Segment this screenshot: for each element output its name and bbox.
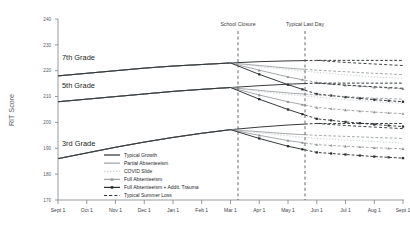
y-tick-label: 170	[43, 198, 51, 203]
data-point-marker	[402, 157, 404, 159]
grade-label-5th: 5th Grade	[62, 81, 95, 90]
x-tick-label: Sept 1	[396, 207, 410, 213]
data-point-marker	[373, 99, 375, 101]
typical-last-day-label: Typical Last Day	[286, 21, 324, 27]
x-tick-label: Jan 1	[167, 207, 179, 213]
y-tick-label: 230	[43, 43, 51, 48]
data-point-marker	[344, 153, 346, 155]
data-point-marker	[287, 145, 289, 147]
x-tick-label: Oct 1	[81, 207, 93, 213]
x-tick-label: May 1	[281, 207, 295, 213]
legend-label: Typical Summer Loss	[124, 192, 172, 198]
data-point-marker	[316, 151, 318, 153]
y-tick-label: 200	[43, 120, 51, 125]
y-tick-label: 190	[43, 146, 51, 151]
data-point-marker	[258, 98, 260, 100]
legend-label: COVID Slide	[124, 168, 153, 174]
chart-container: 170180190200210220230240 RIT Score Sept …	[0, 0, 410, 232]
data-point-marker	[344, 121, 346, 123]
x-tick-label: Jul 1	[340, 207, 351, 213]
data-point-marker	[402, 125, 404, 127]
legend-square-marker	[111, 186, 114, 189]
data-point-marker	[402, 101, 404, 103]
x-tick-label: Aug 1	[368, 207, 381, 213]
legend-label: Full Absenteeism + Addit. Trauma	[124, 184, 199, 190]
x-tick-label: Nov 1	[109, 207, 122, 213]
grade-label-3rd: 3rd Grade	[62, 139, 95, 148]
legend-label: Full Absenteeism	[124, 176, 162, 182]
legend-label: Typical Growth	[124, 152, 157, 158]
data-point-marker	[258, 137, 260, 139]
data-point-marker	[373, 155, 375, 157]
y-tick-label: 240	[43, 17, 51, 22]
x-tick-label: Feb 1	[195, 207, 208, 213]
y-tick-label: 210	[43, 94, 51, 99]
x-tick-label: Apr 1	[253, 207, 265, 213]
legend-label: Partial Absenteeism	[124, 160, 168, 166]
data-point-marker	[287, 108, 289, 110]
y-axis-title: RIT Score	[7, 94, 16, 126]
chart-background	[0, 0, 410, 232]
grade-label-7th: 7th Grade	[62, 53, 95, 62]
data-point-marker	[316, 118, 318, 120]
rit-score-line-chart: 170180190200210220230240 RIT Score Sept …	[0, 0, 410, 232]
y-tick-label: 180	[43, 172, 51, 177]
x-tick-label: Sept 1	[51, 207, 66, 213]
school-closure-label: School Closure	[220, 21, 255, 27]
x-tick-label: Jun 1	[311, 207, 323, 213]
y-tick-label: 220	[43, 68, 51, 73]
x-tick-label: Dec 1	[138, 207, 151, 213]
data-point-marker	[258, 73, 260, 75]
x-tick-label: Mar 1	[224, 207, 237, 213]
